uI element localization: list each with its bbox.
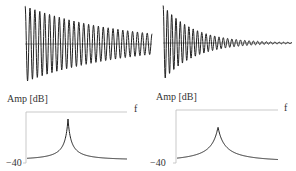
figure (0, 0, 296, 171)
spectrum-right-curve (177, 127, 278, 159)
ylabel-left: Amp [dB] (7, 94, 48, 104)
ymin-right: −40 (150, 158, 166, 168)
spectrum-left-curve (27, 119, 127, 159)
ymin-left: −40 (6, 158, 22, 168)
xlabel-left: f (134, 104, 137, 114)
ylabel-right: Amp [dB] (156, 92, 197, 102)
waveform-left (25, 6, 152, 81)
waveform-right (163, 5, 292, 78)
xlabel-right: f (284, 103, 287, 113)
